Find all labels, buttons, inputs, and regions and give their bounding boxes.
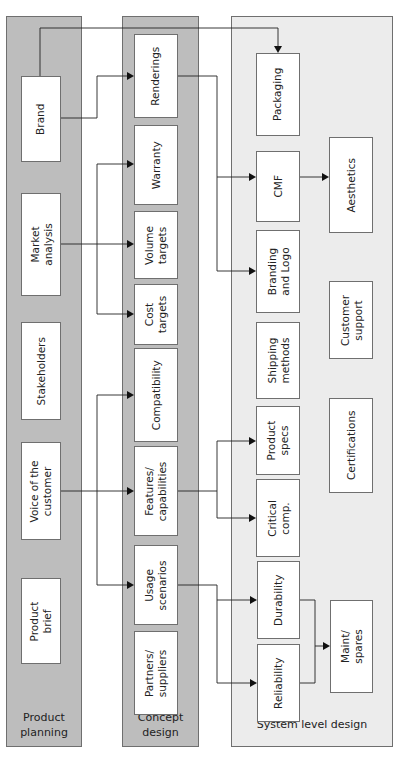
box-volume-targets: Volume targets — [134, 211, 178, 279]
box-partners-suppliers: Partners/ suppliers — [134, 631, 178, 715]
box-reliability: Reliability — [257, 644, 300, 722]
box-critical-comp: Critical comp. — [256, 479, 300, 557]
box-packaging: Packaging — [256, 53, 300, 136]
box-aesthetics: Aesthetics — [329, 137, 373, 233]
box-cmf: CMF — [256, 151, 300, 222]
column-label-product-planning: Product planning — [7, 710, 81, 740]
box-compatibility: Compatibility — [134, 348, 178, 442]
box-product-brief: Product brief — [21, 578, 61, 664]
box-usage-scenarios: Usage scenarios — [134, 545, 178, 625]
box-customer-support: Customer support — [329, 281, 373, 359]
box-maint-spares: Maint/ spares — [330, 600, 373, 693]
box-certifications: Certifications — [329, 398, 373, 493]
box-durability: Durability — [257, 561, 300, 639]
box-branding-and-logo: Branding and Logo — [256, 230, 300, 313]
box-shipping-methods: Shipping methods — [256, 322, 300, 399]
box-stakeholders: Stakeholders — [21, 322, 61, 420]
box-market-analysis: Market analysis — [21, 193, 61, 296]
box-product-specs: Product specs — [256, 406, 300, 475]
column-label-system-level-design: System level design — [232, 717, 392, 732]
box-warranty: Warranty — [134, 125, 178, 205]
box-voice-of-the-customer: Voice of the customer — [21, 442, 61, 540]
box-brand: Brand — [21, 76, 61, 162]
box-renderings: Renderings — [134, 34, 178, 118]
box-cost-targets: Cost targets — [134, 284, 178, 345]
box-features-capabilities: Features/ capabilities — [134, 446, 178, 536]
